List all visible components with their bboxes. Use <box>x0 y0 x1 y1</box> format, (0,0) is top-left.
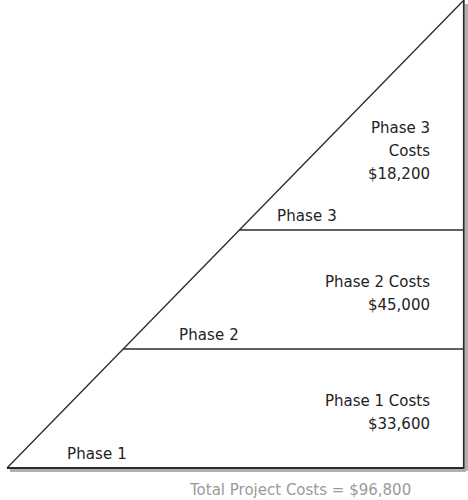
phase-3-costs-title-line2: Costs <box>368 140 430 163</box>
phase-2-costs: Phase 2 Costs $45,000 <box>325 271 430 317</box>
phase-2-costs-title: Phase 2 Costs <box>325 271 430 294</box>
phase-1-label: Phase 1 <box>67 444 127 464</box>
phase-3-costs-value: $18,200 <box>368 163 430 186</box>
phase-3-costs: Phase 3 Costs $18,200 <box>368 117 430 186</box>
phase-2-label: Phase 2 <box>179 325 239 345</box>
total-project-costs: Total Project Costs = $96,800 <box>190 480 411 500</box>
phase-3-label: Phase 3 <box>277 206 337 226</box>
phase-1-costs: Phase 1 Costs $33,600 <box>325 390 430 436</box>
phase-3-costs-title-line1: Phase 3 <box>368 117 430 140</box>
phase-2-costs-value: $45,000 <box>325 294 430 317</box>
phase-1-costs-value: $33,600 <box>325 413 430 436</box>
phase-1-costs-title: Phase 1 Costs <box>325 390 430 413</box>
